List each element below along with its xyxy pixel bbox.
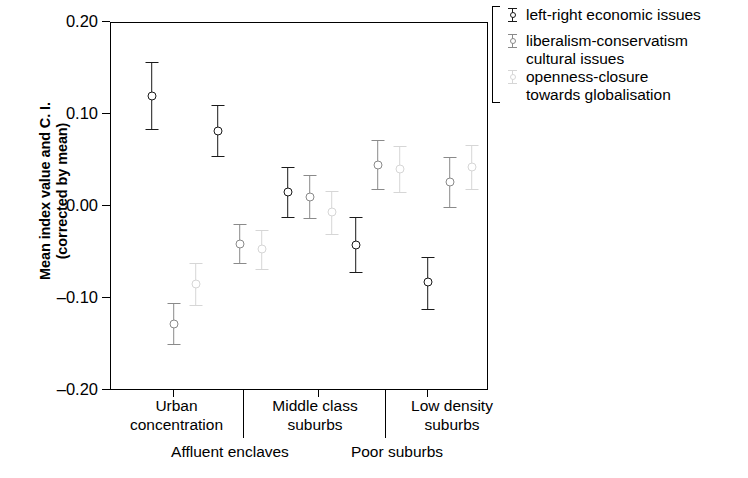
data-marker [396, 165, 405, 174]
data-marker [424, 278, 433, 287]
error-bar-cap-lower [466, 189, 479, 190]
y-axis-tick-label: –0.20 [0, 381, 98, 397]
data-marker [306, 192, 315, 201]
error-bar-cap-upper [146, 62, 159, 63]
legend-marker-icon [506, 6, 520, 23]
data-point [390, 144, 410, 194]
y-axis-tick-label: 0.10 [0, 105, 98, 121]
data-marker [374, 160, 383, 169]
legend-item-label: openness-closure towards globalisation [526, 68, 671, 104]
x-axis-super-category-label: Affluent enclaves [140, 443, 320, 461]
data-marker [236, 239, 245, 248]
x-axis-category-label: Low density suburbs [387, 396, 517, 434]
y-axis-tick [102, 205, 110, 206]
error-bar-cap-upper [326, 191, 339, 192]
data-point [186, 261, 206, 307]
error-bar-cap-upper [466, 145, 479, 146]
data-point [230, 222, 250, 265]
y-axis-tick [102, 389, 110, 390]
error-bar-cap-upper [304, 175, 317, 176]
error-bar-cap-upper [212, 105, 225, 106]
data-point [252, 228, 272, 271]
error-bar-cap-upper [190, 263, 203, 264]
data-point [208, 103, 228, 159]
data-marker [468, 163, 477, 172]
error-bar-cap-lower [422, 309, 435, 310]
error-bar-cap-upper [394, 146, 407, 147]
error-bar-cap-upper [422, 257, 435, 258]
error-bar-cap-upper [282, 167, 295, 168]
data-point [142, 60, 162, 130]
legend-item[interactable]: left-right economic issues [506, 6, 701, 24]
x-axis-category-label: Urban concentration [110, 396, 243, 434]
legend-bracket [492, 6, 500, 103]
error-bar-cap-lower [350, 272, 363, 273]
data-marker [446, 178, 455, 187]
data-point [368, 138, 388, 192]
data-marker [214, 126, 223, 135]
x-axis-group-separator [385, 392, 386, 438]
data-point [346, 215, 366, 274]
data-marker [192, 280, 201, 289]
error-bar-cap-upper [256, 230, 269, 231]
data-point [278, 165, 298, 219]
error-bar-cap-lower [304, 218, 317, 219]
error-bar-cap-lower [146, 129, 159, 130]
error-bar-cap-lower [168, 344, 181, 345]
error-bar-cap-upper [168, 303, 181, 304]
y-axis-tick-label: 0.00 [0, 197, 98, 213]
x-axis-super-category-label: Poor suburbs [322, 443, 472, 461]
data-point [462, 143, 482, 191]
data-point [164, 301, 184, 346]
error-bar-cap-upper [444, 157, 457, 158]
x-axis-category-label: Middle class suburbs [245, 396, 385, 434]
data-marker [352, 240, 361, 249]
legend-marker-icon [506, 68, 520, 85]
legend-item[interactable]: liberalism-conservatism cultural issues [506, 32, 688, 68]
data-marker [148, 91, 157, 100]
error-bar-cap-lower [212, 156, 225, 157]
error-bar-cap-upper [350, 217, 363, 218]
data-point [300, 173, 320, 220]
legend-item-label: left-right economic issues [526, 6, 701, 24]
data-point [440, 155, 460, 209]
y-axis-tick-label: –0.10 [0, 289, 98, 305]
error-bar-cap-lower [256, 269, 269, 270]
error-bar-cap-lower [190, 305, 203, 306]
legend-item-label: liberalism-conservatism cultural issues [526, 32, 688, 68]
error-bar-cap-upper [372, 140, 385, 141]
error-bar-cap-lower [282, 217, 295, 218]
data-marker [170, 319, 179, 328]
error-bar-cap-lower [394, 192, 407, 193]
error-bar-cap-lower [234, 263, 247, 264]
legend-item[interactable]: openness-closure towards globalisation [506, 68, 671, 104]
data-marker [328, 208, 337, 217]
error-bar-cap-lower [372, 189, 385, 190]
legend-marker-icon [506, 32, 520, 49]
error-bar-cap-upper [234, 224, 247, 225]
y-axis-tick-label: 0.20 [0, 13, 98, 29]
chart-root: Mean index value and C. I. (corrected by… [0, 0, 748, 478]
x-axis-group-separator [243, 392, 244, 438]
data-marker [284, 188, 293, 197]
y-axis-tick [102, 113, 110, 114]
y-axis-tick [102, 21, 110, 22]
error-bar-cap-lower [444, 207, 457, 208]
data-point [418, 255, 438, 311]
error-bar-cap-lower [326, 234, 339, 235]
data-point [322, 189, 342, 235]
y-axis-tick [102, 297, 110, 298]
data-marker [258, 245, 267, 254]
